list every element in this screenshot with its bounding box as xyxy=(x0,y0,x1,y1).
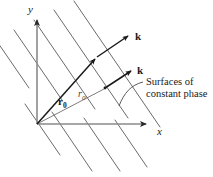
x-axis-label: x xyxy=(157,126,162,137)
figure-root: y x k k r0 r0 Surfaces of constant phase xyxy=(0,0,213,177)
caption-line-1: Surfaces of xyxy=(146,76,208,88)
wave-vector-k-lower-label: k xyxy=(137,65,143,76)
phase-surface-line xyxy=(0,40,29,88)
scalar-r0-subscript: 0 xyxy=(82,94,86,102)
wave-vector-k-upper-label: k xyxy=(135,31,141,42)
phase-surface-line xyxy=(84,118,120,171)
caption-line-2: constant phase xyxy=(146,88,208,100)
position-vector-r0-label: r0 xyxy=(58,96,67,110)
phase-surface-line xyxy=(14,30,62,100)
r0-subscript: 0 xyxy=(63,101,67,110)
ray-to-lower-k xyxy=(37,89,104,124)
phase-surface-line xyxy=(74,1,160,127)
wave-vector-k-upper xyxy=(97,36,128,57)
phase-surface-line xyxy=(115,120,147,167)
y-axis-label: y xyxy=(28,4,33,15)
caption-leader-line xyxy=(119,82,143,106)
scalar-distance-r0-label: r0 xyxy=(78,89,85,102)
position-vector-r0 xyxy=(37,59,95,124)
phase-surface-line xyxy=(25,104,60,155)
surfaces-of-constant-phase-lines xyxy=(0,1,160,171)
lower-k-foot-point xyxy=(104,87,107,90)
surfaces-caption: Surfaces of constant phase xyxy=(146,76,208,101)
